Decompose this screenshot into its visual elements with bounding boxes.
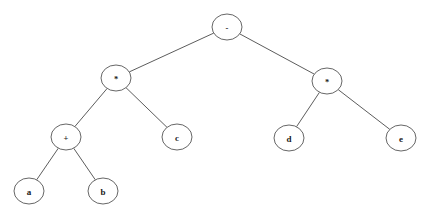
node-label-leaf-b: b [100,187,105,197]
tree-edges [37,33,390,180]
tree-node-mul-left[interactable]: * [101,65,131,91]
tree-node-leaf-d[interactable]: d [274,125,304,151]
expression-tree-diagram: -**+cdeab [0,0,436,213]
tree-node-root[interactable]: - [212,14,242,40]
node-label-mul-right: * [325,77,329,87]
tree-node-leaf-e[interactable]: e [386,125,416,151]
node-label-root: - [226,23,229,33]
node-label-leaf-e: e [399,134,403,144]
tree-canvas: -**+cdeab [0,0,436,213]
tree-edge-root-to-mul-right [240,34,315,74]
tree-node-leaf-a[interactable]: a [14,178,44,204]
tree-edge-mul-left-to-leaf-c [126,88,167,128]
tree-edge-mul-right-to-leaf-d [297,92,320,126]
tree-node-leaf-c[interactable]: c [162,124,192,150]
node-label-plus: + [64,133,69,143]
node-label-leaf-a: a [27,187,32,197]
tree-edge-mul-left-to-plus [75,88,107,126]
tree-edge-root-to-mul-left [129,33,214,72]
tree-edge-plus-to-leaf-a [37,148,59,180]
node-label-leaf-c: c [175,133,179,143]
tree-nodes: -**+cdeab [14,14,416,204]
node-label-mul-left: * [114,74,118,84]
tree-edge-plus-to-leaf-b [74,148,96,180]
tree-node-leaf-b[interactable]: b [88,178,118,204]
node-label-leaf-d: d [286,134,291,144]
tree-edge-mul-right-to-leaf-e [338,90,390,130]
tree-node-mul-right[interactable]: * [312,68,342,94]
tree-node-plus[interactable]: + [51,124,81,150]
